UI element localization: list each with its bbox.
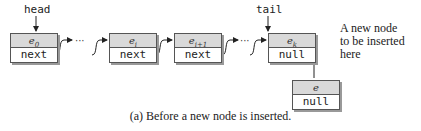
new-node: e null bbox=[292, 80, 340, 110]
node-2: ei+1 next bbox=[174, 33, 222, 63]
annotation-line: here bbox=[340, 48, 405, 61]
tail-label: tail bbox=[256, 3, 283, 16]
ellipsis-2: ··· bbox=[240, 35, 250, 46]
node-1: ei next bbox=[109, 33, 157, 63]
node-link: null bbox=[293, 95, 339, 109]
node-3: ek null bbox=[268, 33, 316, 63]
head-label: head bbox=[24, 3, 51, 16]
insert-annotation: A new node to be inserted here bbox=[340, 22, 405, 61]
node-link: next bbox=[175, 48, 221, 62]
link-arrow-2 bbox=[222, 40, 238, 55]
link-arrow-1 bbox=[156, 40, 172, 55]
link-arrow-gap-2 bbox=[250, 40, 266, 55]
node-link: next bbox=[110, 48, 156, 62]
figure-caption: (a) Before a new node is inserted. bbox=[0, 109, 421, 124]
link-arrow-gap-1 bbox=[92, 40, 107, 55]
link-arrow-0 bbox=[56, 40, 72, 55]
node-0: e0 next bbox=[10, 33, 58, 63]
ellipsis-1: ··· bbox=[75, 35, 85, 46]
node-link: next bbox=[11, 48, 57, 62]
node-element: e bbox=[313, 82, 319, 93]
node-link: null bbox=[269, 48, 315, 62]
